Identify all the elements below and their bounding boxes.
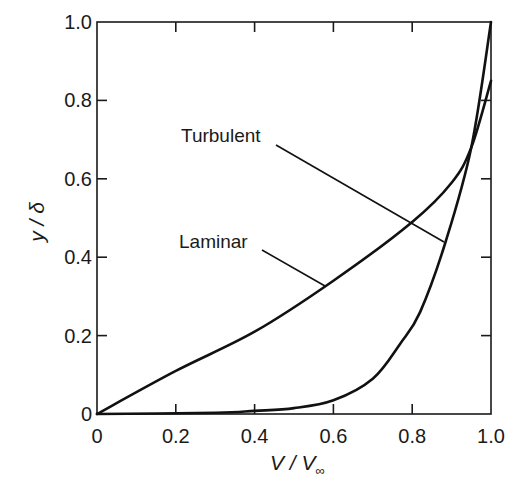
curve-turbulent	[97, 22, 491, 414]
svg-text:V / V∞: V / V∞	[270, 451, 325, 478]
velocity-profile-chart: 00.20.40.60.81.000.20.40.60.81.0 Turbule…	[0, 0, 523, 489]
annotation-laminar: Laminar	[179, 231, 248, 252]
y-axis-label: y / δ	[25, 202, 48, 244]
y-tick-label: 0	[81, 403, 92, 425]
x-tick-label: 0.8	[398, 425, 426, 447]
x-tick-label: 1.0	[477, 425, 505, 447]
y-tick-label: 0.8	[64, 89, 92, 111]
axis-ticks	[97, 22, 491, 414]
laminar-leader-line	[262, 250, 325, 286]
y-tick-label: 0.4	[64, 246, 92, 268]
x-tick-label: 0.2	[162, 425, 190, 447]
annotation-turbulent: Turbulent	[181, 125, 261, 146]
plot-frame	[97, 22, 491, 414]
curves	[97, 22, 491, 414]
x-axis-label-main: V / V	[270, 451, 318, 474]
plot-border	[97, 22, 491, 414]
tick-labels: 00.20.40.60.81.000.20.40.60.81.0	[64, 11, 505, 447]
x-tick-label: 0.4	[241, 425, 269, 447]
x-tick-label: 0.6	[319, 425, 347, 447]
x-tick-label: 0	[91, 425, 102, 447]
curve-laminar	[97, 81, 491, 414]
y-tick-label: 0.2	[64, 325, 92, 347]
x-axis-label-subscript: ∞	[316, 463, 325, 478]
x-axis-label: V / V∞	[270, 451, 325, 478]
y-tick-label: 1.0	[64, 11, 92, 33]
annotations: Turbulent Laminar	[179, 125, 444, 286]
turbulent-leader-line	[276, 145, 444, 242]
y-tick-label: 0.6	[64, 168, 92, 190]
